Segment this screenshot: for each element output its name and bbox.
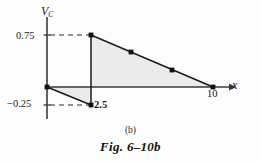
data-point-2.5-neg0.25 bbox=[89, 103, 94, 108]
x-tick-label-end: 10 bbox=[207, 89, 218, 100]
x-axis-label: x bbox=[232, 79, 237, 91]
figure-caption-title: Fig. 6–10b bbox=[0, 140, 261, 153]
figure-caption-subindex: (b) bbox=[0, 126, 261, 136]
data-point-2.5-0.75 bbox=[89, 33, 94, 38]
y-tick-label-upper: 0.75 bbox=[16, 31, 34, 42]
data-point-5-0.5 bbox=[129, 50, 134, 55]
y-tick-label-lower: −0.25 bbox=[7, 99, 31, 110]
y-axis-label: VC bbox=[41, 5, 53, 17]
data-point-7.5-0.25 bbox=[170, 68, 175, 73]
data-point-0-0 bbox=[45, 85, 50, 90]
x-tick-label-break: 2.5 bbox=[94, 100, 107, 111]
figure-container: VC x 0.75 −0.25 2.5 10 (b) Fig. 6–10b bbox=[0, 0, 261, 164]
y-axis-label-subscript: C bbox=[48, 10, 53, 19]
